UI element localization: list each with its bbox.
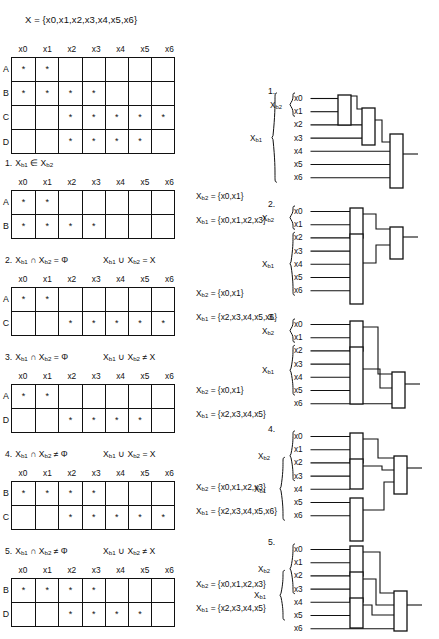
- col-header: x1: [35, 565, 59, 575]
- col-header: x4: [109, 177, 133, 187]
- cell-marked: *: [128, 409, 151, 432]
- col-header: x6: [157, 565, 181, 575]
- cell-empty: [35, 506, 58, 529]
- col-header: x6: [157, 44, 181, 54]
- case-title: 5.Xb1 ∩ Xb2 ≠ Φ: [5, 546, 68, 556]
- logic-diagram: 3.x0x1x2x3x4x5x6Xb2Xb1: [250, 318, 439, 428]
- case-table: x0x1x2x3x4x5x6******AB: [11, 177, 175, 239]
- col-header: x5: [133, 565, 157, 575]
- col-header: x4: [109, 565, 133, 575]
- logic-diagram: 1.x0x1x2x3x4x5x6Xb1Xb2: [250, 92, 439, 202]
- col-header: x2: [60, 274, 84, 284]
- cell-marked: *: [35, 385, 58, 408]
- cell-marked: *: [128, 506, 151, 529]
- cell-empty: [58, 58, 81, 81]
- col-header: x0: [11, 274, 35, 284]
- case-title: 3.Xb1 ∩ Xb2 = Φ: [5, 352, 68, 362]
- table-row: ****: [12, 602, 174, 626]
- set-xb2: Xb2 = {x0,x1}: [196, 191, 243, 201]
- cell-marked: *: [128, 130, 151, 153]
- case-grid: *******AC: [11, 287, 175, 336]
- col-header: x2: [60, 44, 84, 54]
- cell-empty: [151, 130, 174, 153]
- cell-empty: [151, 58, 174, 81]
- cell-empty: [105, 385, 128, 408]
- table-row: ****: [12, 579, 174, 602]
- cell-marked: *: [12, 215, 35, 238]
- cell-marked: *: [128, 603, 151, 626]
- row-label: A: [1, 64, 11, 74]
- col-header: x4: [109, 44, 133, 54]
- diagram-svg: [250, 430, 439, 540]
- cell-marked: *: [82, 130, 105, 153]
- table-row: ****: [12, 81, 174, 105]
- cell-empty: [35, 312, 58, 335]
- diagram-svg: [250, 318, 439, 428]
- table-row: ****: [12, 482, 174, 505]
- diagram-svg: [250, 543, 439, 639]
- case-table-column-headers: x0x1x2x3x4x5x6: [11, 371, 175, 384]
- cell-empty: [35, 106, 58, 129]
- cell-empty: [105, 58, 128, 81]
- col-header: x1: [35, 177, 59, 187]
- cell-empty: [82, 288, 105, 311]
- cell-marked: *: [12, 482, 35, 505]
- case-table: x0x1x2x3x4x5x6*********BC: [11, 468, 175, 530]
- row-label: A: [1, 294, 11, 304]
- col-header: x1: [35, 468, 59, 478]
- cell-marked: *: [128, 106, 151, 129]
- case-condition-secondary: Xb1 ∪ Xb2 = X: [103, 449, 156, 459]
- cell-marked: *: [105, 130, 128, 153]
- cell-empty: [82, 385, 105, 408]
- cell-empty: [82, 191, 105, 214]
- cell-marked: *: [82, 482, 105, 505]
- cell-empty: [151, 288, 174, 311]
- cell-empty: [128, 58, 151, 81]
- cell-marked: *: [82, 82, 105, 105]
- table-row: ****: [12, 129, 174, 153]
- col-header: x5: [133, 274, 157, 284]
- case-table-column-headers: x0x1x2x3x4x5x6: [11, 565, 175, 578]
- cell-marked: *: [82, 215, 105, 238]
- master-grid: ***************ABCD: [11, 57, 175, 154]
- cell-empty: [105, 191, 128, 214]
- cell-empty: [151, 579, 174, 602]
- cell-empty: [128, 215, 151, 238]
- cell-marked: *: [105, 603, 128, 626]
- cell-empty: [58, 191, 81, 214]
- cell-marked: *: [82, 409, 105, 432]
- cell-empty: [58, 288, 81, 311]
- row-label: C: [1, 112, 11, 122]
- col-header: x0: [11, 371, 35, 381]
- cell-empty: [82, 58, 105, 81]
- table-row: *****: [12, 105, 174, 129]
- row-label: D: [1, 415, 11, 425]
- cell-empty: [151, 82, 174, 105]
- row-label: C: [1, 512, 11, 522]
- cell-empty: [151, 603, 174, 626]
- cell-marked: *: [105, 409, 128, 432]
- cell-marked: *: [151, 106, 174, 129]
- cell-marked: *: [58, 215, 81, 238]
- col-header: x1: [35, 371, 59, 381]
- cell-empty: [12, 106, 35, 129]
- cell-marked: *: [35, 215, 58, 238]
- row-label: B: [1, 585, 11, 595]
- logic-diagram: 4.x0x1x2x3x4x5x6Xb2Xb1: [250, 430, 439, 540]
- table-row: ****: [12, 408, 174, 432]
- cell-empty: [12, 506, 35, 529]
- master-table: x0 x1 x2 x3 x4 x5 x6 ***************ABCD: [11, 44, 175, 154]
- cell-empty: [128, 579, 151, 602]
- case-table: x0x1x2x3x4x5x6********BD: [11, 565, 175, 627]
- col-header: x6: [157, 177, 181, 187]
- col-header: x0: [11, 565, 35, 575]
- cell-marked: *: [12, 191, 35, 214]
- cell-marked: *: [82, 579, 105, 602]
- cell-marked: *: [105, 106, 128, 129]
- logic-diagram: 5.x0x1x2x3x4x5x6Xb2Xb1: [250, 543, 439, 639]
- case-table-column-headers: x0x1x2x3x4x5x6: [11, 468, 175, 481]
- col-header: x5: [133, 468, 157, 478]
- col-header: x0: [11, 177, 35, 187]
- table-row: *****: [12, 505, 174, 529]
- cell-marked: *: [35, 288, 58, 311]
